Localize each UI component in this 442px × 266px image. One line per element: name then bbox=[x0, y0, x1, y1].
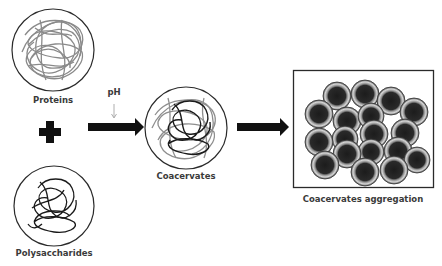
polysaccharides-node bbox=[14, 166, 94, 246]
diagram-canvas bbox=[0, 0, 442, 266]
plus-icon bbox=[39, 121, 61, 143]
coacervates-circle bbox=[145, 87, 227, 169]
proteins-label: Proteins bbox=[33, 95, 73, 105]
aggregation-label: Coacervates aggregation bbox=[303, 194, 423, 204]
arrow-to-coacervates bbox=[88, 118, 144, 136]
aggregation-node bbox=[294, 71, 434, 188]
polysaccharides-circle bbox=[14, 166, 94, 246]
arrow-to-aggregation bbox=[237, 118, 289, 136]
ph-label: pH bbox=[107, 87, 120, 97]
coacervates-node bbox=[145, 87, 227, 169]
ph-arrow-icon bbox=[112, 104, 117, 118]
polysaccharides-label: Polysaccharides bbox=[15, 248, 92, 258]
proteins-node bbox=[12, 9, 94, 91]
coacervates-label: Coacervates bbox=[157, 171, 216, 181]
